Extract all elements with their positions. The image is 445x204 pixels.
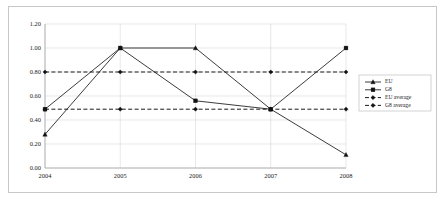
x-axis-tick-labels: 20042005200620072008 <box>39 172 353 179</box>
legend-label-eu-average: EU average <box>385 94 412 100</box>
x-tick-label-2005: 2005 <box>114 172 127 179</box>
marker-eu-average-2006 <box>193 70 197 74</box>
marker-g8-2006 <box>194 99 198 103</box>
y-axis-tick-labels: 0.000.200.400.600.801.001.20 <box>30 20 41 171</box>
y-tick-label-0.40: 0.40 <box>30 116 41 123</box>
line-chart: 0.000.200.400.600.801.001.20 20042005200… <box>9 7 438 194</box>
y-tick-label-1.20: 1.20 <box>30 20 41 27</box>
marker-g8-2005 <box>118 46 122 50</box>
chart-plot-area: 0.000.200.400.600.801.001.20 20042005200… <box>9 7 438 194</box>
legend-label-eu: EU <box>385 78 392 84</box>
marker-eu-average-2007 <box>269 70 273 74</box>
marker-g8-average-2005 <box>118 107 122 111</box>
x-tick-label-2004: 2004 <box>39 172 53 179</box>
y-tick-label-0.80: 0.80 <box>30 68 41 75</box>
y-tick-label-0.20: 0.20 <box>30 140 41 147</box>
chart-legend[interactable]: EUG8EU averageG8 average <box>359 75 431 111</box>
x-tick-label-2008: 2008 <box>340 172 353 179</box>
chart-frame: 0.000.200.400.600.801.001.20 20042005200… <box>8 6 437 193</box>
legend-label-g8: G8 <box>385 86 392 92</box>
marker-g8-2008 <box>344 46 348 50</box>
y-tick-label-0.00: 0.00 <box>30 164 41 171</box>
marker-eu-average-2005 <box>118 70 122 74</box>
marker-g8-average-2008 <box>344 107 348 111</box>
marker-eu-2008 <box>344 153 348 157</box>
marker-eu-average-2008 <box>344 70 348 74</box>
legend-label-g8-average: G8 average <box>385 102 411 108</box>
marker-g8-average-2006 <box>193 107 197 111</box>
y-tick-label-0.60: 0.60 <box>30 92 41 99</box>
x-tick-label-2007: 2007 <box>264 172 278 179</box>
legend-marker-g8 <box>371 88 375 92</box>
marker-eu-average-2004 <box>43 70 47 74</box>
x-tick-label-2006: 2006 <box>189 172 202 179</box>
y-tick-label-1.00: 1.00 <box>30 44 41 51</box>
